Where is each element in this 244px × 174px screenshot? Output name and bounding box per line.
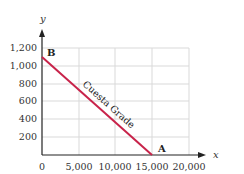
svg-text:15,000: 15,000: [135, 161, 168, 172]
svg-text:10,000: 10,000: [98, 161, 131, 172]
x-axis-label: x: [213, 149, 219, 160]
svg-text:800: 800: [19, 78, 37, 89]
point-a-label: A: [157, 143, 166, 154]
point-b-label: B: [47, 47, 55, 58]
y-axis-arrow-icon: [39, 29, 45, 37]
svg-text:600: 600: [19, 95, 37, 106]
y-axis-label: y: [39, 13, 46, 24]
cuesta-grade-line: [42, 57, 152, 155]
svg-text:0: 0: [39, 161, 45, 172]
svg-text:200: 200: [19, 131, 37, 142]
x-axis-arrow-icon: [198, 152, 206, 158]
svg-text:1,200: 1,200: [10, 42, 37, 53]
svg-text:20,000: 20,000: [172, 161, 205, 172]
svg-text:5,000: 5,000: [65, 161, 92, 172]
chart: y x 200 400 600 800 1,000 1,200 0 5,000 …: [0, 0, 244, 174]
cuesta-grade-label: Cuesta Grade: [81, 78, 138, 130]
y-tick-labels: 200 400 600 800 1,000 1,200: [10, 42, 37, 142]
x-tick-labels: 0 5,000 10,000 15,000 20,000: [39, 161, 206, 172]
svg-text:1,000: 1,000: [10, 60, 37, 71]
svg-text:400: 400: [19, 113, 37, 124]
